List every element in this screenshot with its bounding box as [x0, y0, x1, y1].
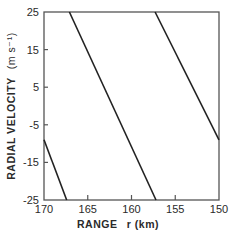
y-axis-title: RADIAL VELOCITY (m s⁻¹) [5, 32, 17, 180]
x-tick-label: 165 [79, 203, 97, 215]
y-tick-label: -5 [29, 119, 39, 131]
plot-frame [44, 12, 219, 200]
y-tick-label: -15 [23, 156, 39, 168]
x-axis-title: RANGE r (km) [77, 218, 159, 230]
chart: 25155-5-15-25 170165160155150 RANGE r (k… [0, 0, 239, 244]
y-tick-label: 15 [27, 44, 39, 56]
y-tick-label: 25 [27, 6, 39, 18]
series-line-3 [44, 140, 67, 200]
x-tick-label: 150 [210, 203, 228, 215]
series-line-1 [69, 12, 156, 200]
plot-border [44, 12, 219, 200]
y-axis-title-unit: (m s⁻¹) [5, 32, 17, 69]
x-axis-title-main: RANGE [77, 218, 117, 230]
x-tick-label: 160 [122, 203, 140, 215]
x-tick-label: 170 [35, 203, 53, 215]
x-axis-title-unit: r (km) [127, 218, 159, 230]
series-line-2 [155, 12, 219, 140]
y-axis-title-main: RADIAL VELOCITY [5, 78, 17, 180]
x-tick-label: 155 [166, 203, 184, 215]
data-series [44, 12, 219, 200]
y-tick-label: 5 [33, 81, 39, 93]
x-axis-ticks: 170165160155150 [35, 195, 228, 215]
